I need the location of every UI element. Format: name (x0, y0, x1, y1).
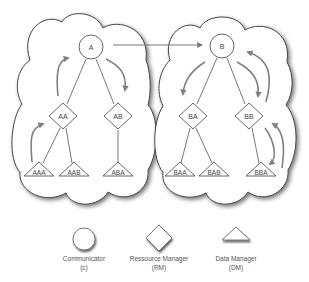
resource-manager-aa-label: AA (58, 113, 68, 120)
legend-item-data-manager: Data Manager (DM) (215, 227, 257, 272)
communicator-b-label: B (220, 43, 225, 50)
communicator-b[interactable]: B (210, 34, 234, 58)
legend-triangle-icon (222, 227, 250, 240)
data-manager-aba-label: ABA (111, 169, 125, 176)
legend-item-resource-manager: Ressource Manager (RM) (130, 225, 189, 272)
resource-manager-bb-label: BB (244, 113, 254, 120)
data-manager-aab-label: AAB (67, 169, 80, 176)
communicator-a[interactable]: A (79, 35, 103, 59)
distributed-architecture-diagram: A B AA AB BA BB AAA AAB ABA BAA BAB (0, 0, 309, 282)
resource-manager-ab-label: AB (113, 113, 123, 120)
legend-resource-manager-abbrev: (RM) (152, 264, 166, 272)
data-manager-baa-label: BAA (173, 169, 187, 176)
data-manager-aaa-label: AAA (32, 169, 46, 176)
legend-data-manager-abbrev: (DM) (229, 264, 243, 272)
legend-communicator-label: Communicator (63, 255, 106, 262)
legend-diamond-icon (146, 225, 172, 251)
resource-manager-ba-label: BA (188, 113, 198, 120)
legend-communicator-abbrev: (c) (80, 264, 88, 272)
legend-resource-manager-label: Ressource Manager (130, 255, 189, 263)
data-manager-bba-label: BBA (254, 169, 268, 176)
communicator-a-label: A (89, 44, 94, 51)
legend-circle-icon (73, 228, 95, 250)
legend-data-manager-label: Data Manager (215, 255, 257, 263)
data-manager-bab-label: BAB (207, 169, 220, 176)
legend-item-communicator: Communicator (c) (63, 228, 106, 272)
legend: Communicator (c) Ressource Manager (RM) … (63, 225, 258, 272)
